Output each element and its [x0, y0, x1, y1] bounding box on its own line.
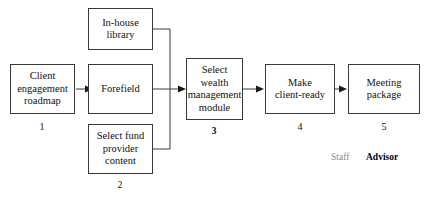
arrowhead-bus-to-wealth-module	[178, 86, 186, 93]
arrowhead-clientready-to-meeting	[339, 86, 347, 93]
node-forefield-label: Forefield	[101, 83, 140, 96]
node-meeting-package[interactable]: Meeting package	[348, 64, 420, 114]
node-forefield[interactable]: Forefield	[88, 64, 153, 114]
node-select-wealth-management-module[interactable]: Select wealth management module	[186, 58, 243, 120]
node-make-client-ready-label: Make client-ready	[275, 77, 325, 102]
legend-advisor: Advisor	[366, 152, 398, 163]
legend-staff: Staff	[331, 152, 349, 163]
arrowhead-wealth-to-clientready	[256, 86, 264, 93]
node-select-fund-provider-content-label: Select fund provider content	[97, 130, 145, 168]
node-client-engagement-roadmap[interactable]: Client engagement roadmap	[10, 64, 75, 114]
node-select-wealth-management-module-label: Select wealth management module	[188, 64, 242, 114]
node-make-client-ready[interactable]: Make client-ready	[265, 64, 335, 114]
node-meeting-package-label: Meeting package	[367, 77, 402, 102]
node-number-1: 1	[32, 122, 52, 132]
node-number-5: 5	[374, 122, 394, 132]
node-client-engagement-roadmap-label: Client engagement roadmap	[17, 70, 68, 108]
node-number-3: 3	[204, 126, 224, 136]
node-in-house-library[interactable]: In-house library	[88, 8, 153, 50]
node-number-4: 4	[290, 122, 310, 132]
node-select-fund-provider-content[interactable]: Select fund provider content	[88, 124, 153, 174]
node-in-house-library-label: In-house library	[102, 17, 139, 42]
flowchart-diagram: In-house library Client engagement roadm…	[0, 0, 447, 200]
node-number-2: 2	[110, 180, 130, 190]
